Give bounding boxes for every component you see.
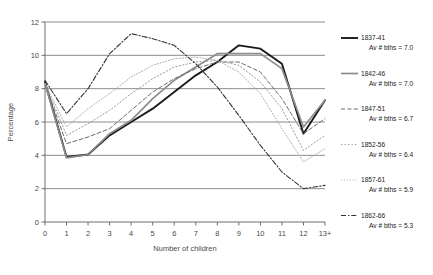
y-tick-label-4: 4: [35, 151, 39, 160]
x-tick-label-10: 10: [256, 229, 264, 238]
legend-note-1862-66: Av # bths = 5.3: [369, 222, 413, 229]
legend-note-1842-46: Av # bths = 7.0: [369, 80, 413, 87]
legend-label-1852-56: 1852-56: [361, 141, 386, 148]
y-tick-label-12: 12: [31, 18, 39, 27]
x-tick-label-2: 2: [86, 229, 90, 238]
x-tick-label-12: 12: [299, 229, 307, 238]
legend-label-1847-51: 1847-51: [361, 105, 386, 112]
legend-label-1857-61: 1857-61: [361, 176, 386, 183]
legend-note-1852-56: Av # bths = 6.4: [369, 151, 413, 158]
legend-note-1857-61: Av # bths = 5.9: [369, 186, 413, 193]
x-tick-label-1: 1: [64, 229, 68, 238]
y-tick-label-0: 0: [35, 218, 39, 227]
x-tick-label-3: 3: [108, 229, 112, 238]
x-tick-label-0: 0: [43, 229, 47, 238]
chart-svg: 024681012012345678910111213+Number of ch…: [0, 0, 433, 275]
x-tick-label-5: 5: [151, 229, 155, 238]
x-tick-label-9: 9: [237, 229, 241, 238]
line-chart: 024681012012345678910111213+Number of ch…: [0, 0, 433, 275]
y-tick-label-2: 2: [35, 184, 39, 193]
legend-note-1847-51: Av # bths = 6.7: [369, 115, 413, 122]
y-axis-title: Percentage: [6, 103, 15, 141]
x-tick-label-7: 7: [194, 229, 198, 238]
x-tick-label-11: 11: [278, 229, 286, 238]
x-tick-label-8: 8: [215, 229, 219, 238]
x-tick-label-6: 6: [172, 229, 176, 238]
y-tick-label-8: 8: [35, 84, 39, 93]
legend-label-1842-46: 1842-46: [361, 70, 386, 77]
legend-label-1862-66: 1862-66: [361, 212, 386, 219]
chart-root: 024681012012345678910111213+Number of ch…: [0, 0, 433, 275]
legend-label-1837-41: 1837-41: [361, 34, 386, 41]
x-tick-label-13+: 13+: [319, 229, 332, 238]
y-tick-label-6: 6: [35, 118, 39, 127]
x-tick-label-4: 4: [129, 229, 133, 238]
y-tick-label-10: 10: [31, 51, 39, 60]
x-axis-title: Number of children: [153, 244, 216, 253]
legend-note-1837-41: Av # bths = 7.0: [369, 44, 413, 51]
